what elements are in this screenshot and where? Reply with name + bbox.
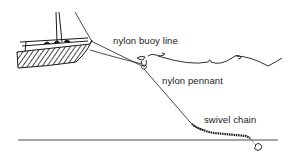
mooring-diagram: nylon buoy line nylon pennant swivel cha… — [0, 0, 292, 163]
swivel-chain — [192, 124, 250, 138]
label-swivel-chain: swivel chain — [204, 114, 256, 125]
label-pennant: nylon pennant — [162, 75, 223, 86]
buoy — [137, 56, 147, 69]
boat — [17, 12, 92, 68]
surface-wave — [148, 53, 282, 66]
label-buoy-line: nylon buoy line — [113, 35, 178, 46]
